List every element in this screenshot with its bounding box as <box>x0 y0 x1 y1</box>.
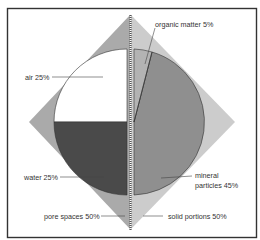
mineral-label-line2: particles 45% <box>195 181 239 190</box>
organic-matter-label: organic matter 5% <box>155 20 214 29</box>
pore-spaces-label: pore spaces 50% <box>44 212 100 221</box>
soil-composition-diagram: air 25% water 25% pore spaces 50% solid … <box>0 0 260 240</box>
air-label: air 25% <box>25 73 50 82</box>
mineral-label-line1: mineral <box>195 171 219 180</box>
solid-portions-label: solid portions 50% <box>168 212 227 221</box>
water-label: water 25% <box>23 173 59 182</box>
